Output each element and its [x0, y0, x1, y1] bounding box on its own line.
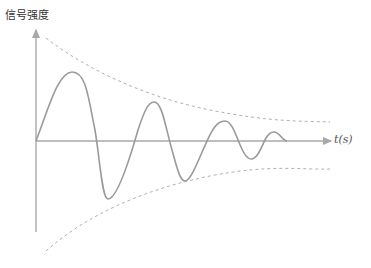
damped-oscillation-figure	[0, 0, 371, 268]
upper-envelope	[46, 38, 330, 122]
lower-envelope	[46, 168, 330, 251]
x-axis-label: t(s)	[334, 133, 353, 146]
signal-curve	[36, 72, 287, 199]
y-axis-label: 信号强度	[5, 6, 49, 22]
